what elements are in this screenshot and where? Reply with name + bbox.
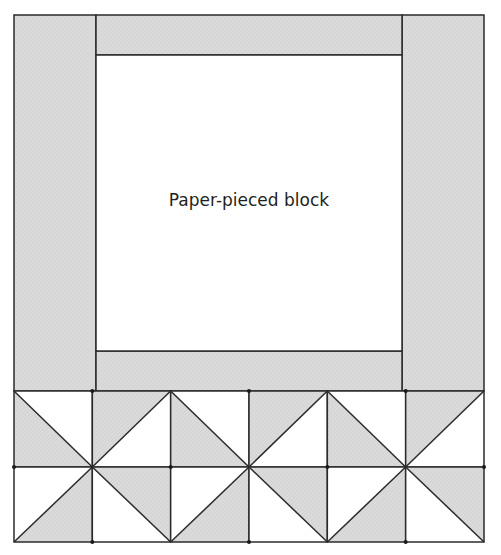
hst-cell <box>92 391 170 467</box>
hst-cell <box>14 391 92 467</box>
bottom-strip <box>96 351 402 391</box>
hst-cell <box>171 467 249 542</box>
hst-cell <box>249 391 327 467</box>
right-side-strip <box>402 15 484 391</box>
left-side-strip <box>14 15 96 391</box>
hst-cell <box>14 467 92 542</box>
hst-cell <box>327 467 405 542</box>
top-strip <box>96 15 402 55</box>
hst-cell <box>171 391 249 467</box>
center-block-label: Paper-pieced block <box>96 190 402 210</box>
hst-cell <box>249 467 327 542</box>
hst-cell <box>406 467 484 542</box>
quilt-diagram <box>0 0 501 555</box>
hst-cell <box>92 467 170 542</box>
hst-cell <box>406 391 484 467</box>
half-square-triangle-rows <box>12 389 486 544</box>
hst-cell <box>327 391 405 467</box>
